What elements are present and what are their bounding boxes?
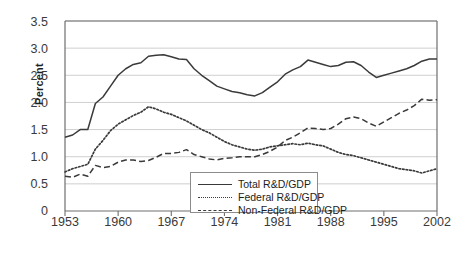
- legend-label: Total R&D/GDP: [238, 179, 311, 190]
- legend-entry-non-federal: Non-Federal R&D/GDP: [198, 204, 347, 217]
- data-series-group: [65, 55, 437, 178]
- x-tick-label: 1967: [157, 215, 185, 229]
- x-tick-label: 1995: [370, 215, 398, 229]
- legend: Total R&D/GDP Federal R&D/GDP Non-Federa…: [190, 172, 318, 213]
- legend-label: Federal R&D/GDP: [238, 192, 324, 203]
- series-line: [65, 107, 437, 173]
- x-tick-label: 1974: [211, 215, 239, 229]
- chart-container: Percent 0 0.5 1.0 1.5 2.0 2.5 3.0 3.5 19…: [0, 0, 459, 265]
- legend-swatch-dotted-icon: [198, 193, 232, 202]
- legend-entry-total: Total R&D/GDP: [198, 178, 311, 191]
- x-tick-label: 2002: [423, 215, 451, 229]
- legend-label: Non-Federal R&D/GDP: [238, 205, 347, 216]
- x-tick-label: 1960: [104, 215, 132, 229]
- series-line: [65, 99, 437, 177]
- x-tick-label: 1988: [317, 215, 345, 229]
- x-tick-label: 1981: [264, 215, 292, 229]
- legend-swatch-solid-icon: [198, 180, 232, 189]
- legend-entry-federal: Federal R&D/GDP: [198, 191, 324, 204]
- x-tick-label: 1953: [51, 215, 79, 229]
- series-line: [65, 55, 437, 138]
- legend-swatch-dashed-icon: [198, 206, 232, 215]
